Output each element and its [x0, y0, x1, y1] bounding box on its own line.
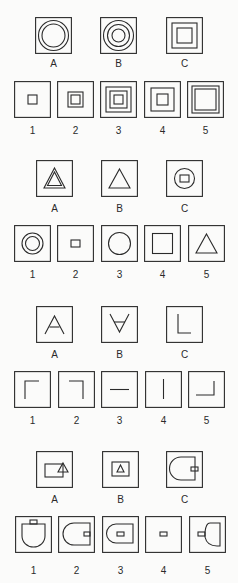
label-1-A: A: [35, 59, 72, 69]
option-3-4[interactable]: [145, 371, 182, 408]
option-4-5[interactable]: [189, 516, 226, 553]
label-3-C: C: [166, 350, 203, 360]
panel-1-B: [100, 17, 137, 54]
option-label-3-5: 5: [188, 416, 225, 426]
option-3-2[interactable]: [58, 371, 95, 408]
label-3-A: A: [36, 350, 73, 360]
panel-4-B: [102, 451, 139, 488]
option-1-1[interactable]: [14, 81, 51, 118]
inner-circle-icon: [42, 24, 65, 47]
option-1-3[interactable]: [100, 81, 137, 118]
option-3-3[interactable]: [101, 371, 138, 408]
panel-2-C: [166, 160, 203, 197]
option-label-4-5: 5: [189, 566, 226, 576]
option-label-2-4: 4: [144, 270, 181, 280]
panel-2-A: [36, 160, 73, 197]
option-4-1[interactable]: [15, 516, 52, 553]
outer-circle-icon: [39, 21, 69, 51]
option-2-1[interactable]: [14, 225, 51, 262]
option-3-5[interactable]: [188, 371, 225, 408]
label-4-C: C: [166, 495, 203, 505]
label-4-B: B: [102, 495, 139, 505]
option-label-3-4: 4: [145, 416, 182, 426]
label-3-B: B: [101, 350, 138, 360]
panel-3-B: [101, 306, 138, 343]
option-4-4[interactable]: [145, 516, 182, 553]
option-label-3-1: 1: [14, 416, 51, 426]
label-4-A: A: [36, 495, 73, 505]
option-label-3-2: 2: [58, 416, 95, 426]
option-2-4[interactable]: [144, 225, 181, 262]
option-label-2-2: 2: [57, 270, 94, 280]
option-4-2[interactable]: [58, 516, 95, 553]
label-2-B: B: [101, 204, 138, 214]
option-label-1-2: 2: [57, 126, 94, 136]
panel-1-C: [166, 17, 203, 54]
option-1-4[interactable]: [144, 81, 181, 118]
option-label-4-1: 1: [15, 566, 52, 576]
label-2-A: A: [36, 204, 73, 214]
option-2-3[interactable]: [101, 225, 138, 262]
label-1-C: C: [166, 59, 203, 69]
option-label-1-5: 5: [187, 126, 224, 136]
option-label-2-3: 3: [101, 270, 138, 280]
option-label-1-1: 1: [14, 126, 51, 136]
option-label-1-4: 4: [144, 126, 181, 136]
option-label-2-1: 1: [14, 270, 51, 280]
option-label-3-3: 3: [101, 416, 138, 426]
label-1-B: B: [100, 59, 137, 69]
panel-4-A: [36, 451, 73, 488]
panel-2-B: [101, 160, 138, 197]
option-label-4-3: 3: [102, 566, 139, 576]
option-2-5[interactable]: [188, 225, 225, 262]
panel-4-C: [166, 451, 203, 488]
option-1-2[interactable]: [57, 81, 94, 118]
option-2-2[interactable]: [57, 225, 94, 262]
option-1-5[interactable]: [187, 81, 224, 118]
option-label-4-4: 4: [145, 566, 182, 576]
option-label-1-3: 3: [100, 126, 137, 136]
option-3-1[interactable]: [14, 371, 51, 408]
option-label-4-2: 2: [58, 566, 95, 576]
option-4-3[interactable]: [102, 516, 139, 553]
panel-3-C: [166, 306, 203, 343]
panel-3-A: [36, 306, 73, 343]
option-label-2-5: 5: [188, 270, 225, 280]
label-2-C: C: [166, 204, 203, 214]
panel-1-A: [35, 17, 72, 54]
